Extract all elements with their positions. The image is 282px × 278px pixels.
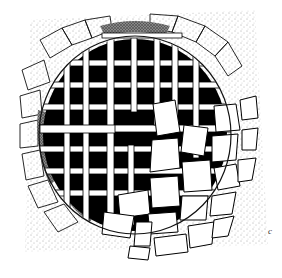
- figure-label: c: [268, 226, 272, 236]
- drain-grate-illustration: [0, 0, 282, 278]
